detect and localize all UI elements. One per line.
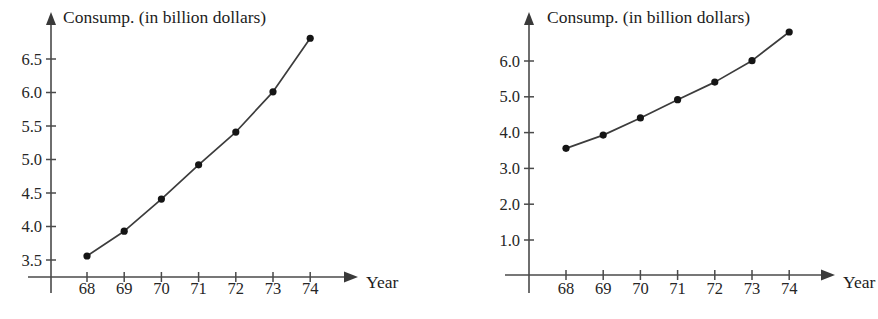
figure-page: Consump. (in billion dollars)3.54.04.55.… [0,0,878,319]
x-axis-tick-label: 71 [669,279,686,298]
data-point-marker [748,57,755,64]
x-axis-tick-label: 73 [744,279,761,298]
x-axis-tick-label: 68 [79,279,96,298]
y-axis-tick-label: 4.0 [499,123,520,142]
chart-right-canvas: Consump. (in billion dollars)1.02.03.04.… [439,0,878,319]
data-point-marker [307,35,314,42]
y-axis-tick-label: 6.0 [21,83,42,102]
data-point-marker [83,252,90,259]
chart-left: Consump. (in billion dollars)3.54.04.55.… [0,0,439,319]
data-point-marker [711,79,718,86]
x-axis-tick-label: 74 [781,279,798,298]
x-axis-tick-label: 69 [116,279,133,298]
y-axis-arrow-icon [46,12,56,25]
y-axis-tick-label: 5.0 [499,87,520,106]
data-point-marker [786,28,793,35]
data-series-line [87,38,310,256]
x-axis-name: Year [843,272,875,292]
x-axis-arrow-icon [821,270,835,281]
y-axis-tick-label: 6.0 [499,52,520,71]
chart-left-canvas: Consump. (in billion dollars)3.54.04.55.… [0,0,439,319]
y-axis-tick-label: 5.5 [21,117,42,136]
data-point-marker [158,195,165,202]
y-axis-tick-label: 5.0 [21,150,42,169]
data-point-marker [562,145,569,152]
x-axis-tick-label: 72 [707,279,724,298]
y-axis-tick-label: 3.5 [21,251,42,270]
y-axis-tick-label: 2.0 [499,195,520,214]
x-axis-name: Year [366,272,398,292]
data-point-marker [637,114,644,121]
y-axis-tick-label: 1.0 [499,231,520,250]
x-axis-tick-label: 73 [265,279,282,298]
chart-title: Consump. (in billion dollars) [63,7,266,27]
x-axis-tick-label: 70 [632,279,649,298]
y-axis-tick-label: 4.0 [21,217,42,236]
x-axis-tick-label: 71 [190,279,207,298]
data-point-marker [232,128,239,135]
data-series-line [566,32,789,148]
data-point-marker [674,96,681,103]
y-axis-tick-label: 6.5 [21,50,42,69]
chart-title: Consump. (in billion dollars) [547,7,750,27]
x-axis-tick-label: 72 [228,279,245,298]
data-point-marker [121,228,128,235]
data-point-marker [269,88,276,95]
y-axis-arrow-icon [524,12,534,25]
y-axis-tick-label: 3.0 [499,159,520,178]
x-axis-tick-label: 74 [302,279,319,298]
x-axis-arrow-icon [344,272,358,283]
chart-right: Consump. (in billion dollars)1.02.03.04.… [439,0,878,319]
y-axis-tick-label: 4.5 [21,184,42,203]
x-axis-tick-label: 68 [558,279,575,298]
x-axis-tick-label: 69 [595,279,612,298]
x-axis-tick-label: 70 [153,279,170,298]
data-point-marker [600,132,607,139]
data-point-marker [195,161,202,168]
